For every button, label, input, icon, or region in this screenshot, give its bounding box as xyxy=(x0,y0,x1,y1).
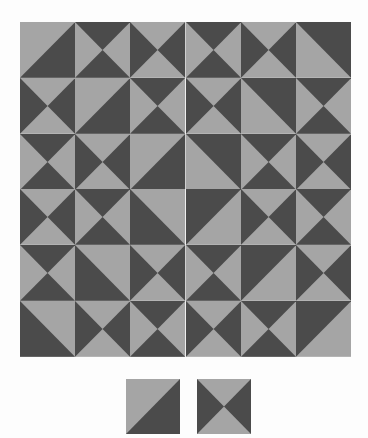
hourglass-vertical-tile xyxy=(296,189,351,245)
hourglass-horizontal-tile xyxy=(296,134,351,190)
diagonal-tile-dark-top-right xyxy=(296,22,351,78)
hourglass-horizontal-tile xyxy=(186,301,241,357)
hourglass-vertical-tile xyxy=(186,22,241,78)
hourglass-horizontal-tile xyxy=(130,245,185,301)
hourglass-horizontal-tile xyxy=(75,301,130,357)
diagonal-tile-light-top-left xyxy=(20,22,75,78)
diagonal-tile-dark-top-left xyxy=(241,245,296,301)
diagonal-tile-dark-bottom-left xyxy=(75,245,130,301)
diagonal-tile-light-top-left xyxy=(130,134,185,190)
diagonal-tile-dark-top-right xyxy=(186,134,241,190)
answer-option-diagonal-tile[interactable] xyxy=(126,379,180,434)
hourglass-horizontal-tile xyxy=(75,134,130,190)
diagonal-tile-dark-top-right xyxy=(241,78,296,134)
hourglass-vertical-tile xyxy=(186,245,241,301)
diagonal-tile-dark-top-left xyxy=(296,301,351,357)
hourglass-vertical-tile xyxy=(20,245,75,301)
hourglass-horizontal-tile xyxy=(186,78,241,134)
hourglass-vertical-tile xyxy=(130,301,185,357)
hourglass-horizontal-tile xyxy=(241,189,296,245)
answer-options xyxy=(0,379,368,438)
hourglass-horizontal-tile xyxy=(296,245,351,301)
hourglass-horizontal-tile xyxy=(20,189,75,245)
hourglass-vertical-tile xyxy=(241,134,296,190)
hourglass-vertical-tile xyxy=(130,78,185,134)
answer-option-hourglass-tile[interactable] xyxy=(197,379,251,434)
hourglass-vertical-tile xyxy=(20,134,75,190)
diagonal-tile-light-top-left xyxy=(75,78,130,134)
hourglass-horizontal-tile xyxy=(130,22,185,78)
diagonal-tile-dark-bottom-left xyxy=(20,301,75,357)
hourglass-vertical-tile xyxy=(75,22,130,78)
diagonal-tile-dark-top-left xyxy=(186,189,241,245)
hourglass-horizontal-tile xyxy=(241,22,296,78)
hourglass-vertical-tile xyxy=(296,78,351,134)
diagonal-tile-dark-bottom-left xyxy=(130,189,185,245)
pattern-grid xyxy=(20,22,351,357)
hourglass-horizontal-tile xyxy=(20,78,75,134)
hourglass-vertical-tile xyxy=(241,301,296,357)
hourglass-vertical-tile xyxy=(75,189,130,245)
